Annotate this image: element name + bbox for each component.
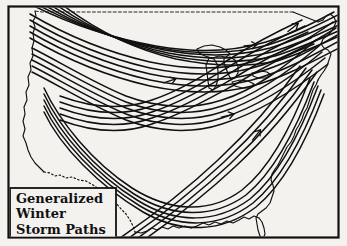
map-canvas: Generalized Winter Storm Paths [0, 0, 347, 246]
legend-line-3: Storm Paths [16, 222, 106, 237]
legend-line-1: Generalized [16, 191, 103, 206]
legend: Generalized Winter Storm Paths [10, 188, 116, 240]
legend-line-2: Winter [15, 206, 66, 221]
storm-paths-map-figure: Generalized Winter Storm Paths [0, 0, 347, 246]
